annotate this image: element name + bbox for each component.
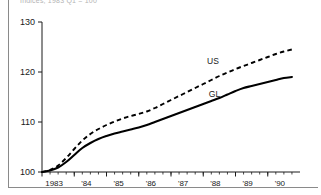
x-tick-label-90: '90	[275, 179, 286, 188]
y-tick-marks	[38, 22, 42, 172]
x-tick-label-1983: 1983	[45, 179, 63, 188]
x-tick-label-86: '86	[146, 179, 157, 188]
series-line-US	[42, 50, 292, 173]
y-tick-label-100: 100	[20, 167, 35, 177]
series-line-GL	[42, 77, 292, 172]
series-label-US: US	[207, 56, 219, 66]
series-inline-labels: USGL	[207, 56, 220, 99]
x-tick-label-89: '89	[242, 179, 253, 188]
x-tick-label-85: '85	[113, 179, 124, 188]
x-tick-label-84: '84	[81, 179, 92, 188]
x-tick-labels: 1983'84'85'86'87'88'89'90	[45, 179, 285, 188]
x-axis-group: 1983'84'85'86'87'88'89'90	[42, 172, 300, 188]
x-tick-label-88: '88	[210, 179, 221, 188]
data-series-group	[42, 50, 292, 173]
y-tick-labels: 100110120130	[20, 17, 35, 177]
line-chart-plot: 100110120130 1983'84'85'86'87'88'89'90 U…	[0, 0, 321, 195]
y-axis-group: 100110120130	[20, 17, 42, 177]
chart-figure: Indices, 1983 Q1 = 100 100110120130 1983…	[0, 0, 321, 195]
x-tick-label-87: '87	[178, 179, 189, 188]
y-tick-label-110: 110	[21, 117, 35, 127]
y-tick-label-120: 120	[20, 67, 35, 77]
series-label-GL: GL	[209, 89, 221, 99]
y-tick-label-130: 130	[20, 17, 35, 27]
